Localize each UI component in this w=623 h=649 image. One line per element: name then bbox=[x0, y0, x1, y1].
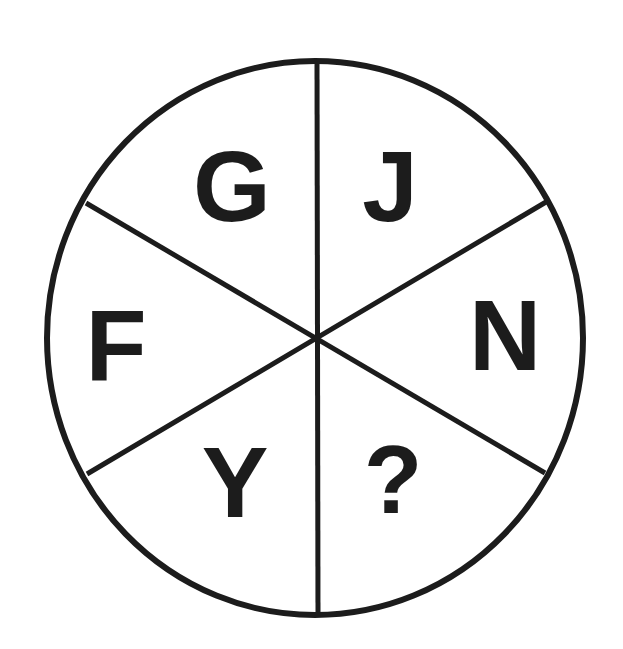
segment-bottom-right-question-mark: ? bbox=[364, 432, 423, 528]
segment-bottom-left-letter: Y bbox=[202, 432, 269, 532]
segment-right-letter: N bbox=[469, 285, 541, 385]
segment-top-right-letter: J bbox=[362, 136, 418, 236]
segment-left-letter: F bbox=[85, 295, 146, 395]
segment-top-left-letter: G bbox=[193, 136, 271, 236]
letter-wheel-puzzle: G J N ? Y F bbox=[0, 0, 623, 649]
